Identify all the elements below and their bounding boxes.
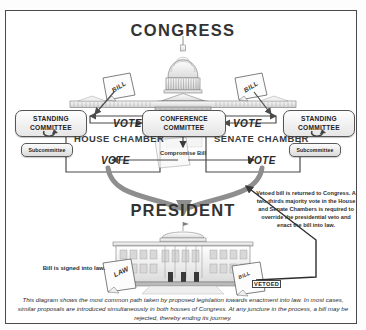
vote-label-house-bottom: VOTE xyxy=(101,155,130,166)
subcommittee-right[interactable]: Subcommittee xyxy=(289,143,341,157)
compromise-bill-label: Compromise Bill xyxy=(143,150,223,157)
vetoed-paper-icon xyxy=(232,262,265,296)
vetoed-stamp: VETOED xyxy=(252,280,281,288)
diagram-artwork xyxy=(0,0,366,330)
diagram-caption: This diagram shows the most common path … xyxy=(14,296,352,323)
loop-arrow-icon-right xyxy=(308,129,330,145)
vote-label-senate-bottom: VOTE xyxy=(247,155,276,166)
veto-override-note: Vetoed bill is returned to Congress. A t… xyxy=(256,190,356,230)
vote-label-house-top: VOTE xyxy=(113,118,142,129)
signed-into-law-note: Bill is signed into law. xyxy=(38,265,110,273)
page-title-congress: CONGRESS xyxy=(0,22,366,39)
senate-chamber-label: SENATE CHAMBER xyxy=(214,134,309,144)
loop-arrow-icon-left xyxy=(40,129,62,145)
house-chamber-label: HOUSE CHAMBER xyxy=(74,134,164,144)
diagram-canvas: CONGRESS PRESIDENT STANDING COMMITTEE ST… xyxy=(0,0,366,330)
vote-label-senate-top: VOTE xyxy=(233,118,262,129)
subcommittee-left[interactable]: Subcommittee xyxy=(21,143,73,157)
